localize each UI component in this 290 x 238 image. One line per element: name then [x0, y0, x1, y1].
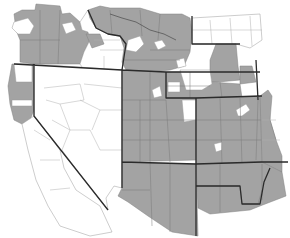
state-plains	[260, 90, 282, 172]
state-arizona	[118, 162, 198, 236]
state-new-mexico	[196, 162, 286, 214]
state-oregon	[12, 4, 90, 64]
county-map	[0, 0, 290, 238]
